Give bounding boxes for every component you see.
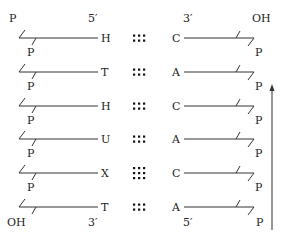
hbond-dot bbox=[133, 103, 135, 105]
right-base-label: C bbox=[172, 100, 180, 113]
left-bottom-end-label: 3′ bbox=[88, 216, 98, 229]
left-base-label: T bbox=[101, 201, 109, 214]
hbond-dot bbox=[143, 136, 145, 138]
hbond-dot bbox=[133, 167, 135, 169]
left-phosphate-label: P bbox=[27, 114, 35, 127]
hbond-dot bbox=[138, 69, 140, 71]
hbond-dot bbox=[138, 108, 140, 110]
left-lower-bond bbox=[32, 106, 36, 113]
hbond-dot bbox=[138, 167, 140, 169]
hbond-dot bbox=[143, 209, 145, 211]
right-base-label: A bbox=[171, 133, 181, 146]
hbond-dot bbox=[133, 74, 135, 76]
hbond-dot bbox=[133, 35, 135, 37]
hbond-dot bbox=[143, 74, 145, 76]
left-base-label: H bbox=[101, 100, 111, 113]
right-top-oh-label: OH bbox=[252, 12, 271, 25]
base-pair-row: PHCP bbox=[19, 30, 263, 59]
hbond-dot bbox=[143, 69, 145, 71]
hbond-dot bbox=[143, 172, 145, 174]
hbond-dot bbox=[138, 40, 140, 42]
hbond-dot bbox=[138, 141, 140, 143]
hbond-dot bbox=[138, 74, 140, 76]
hbond-dot bbox=[143, 177, 145, 179]
hydrogen-bond-dots bbox=[133, 35, 145, 42]
hbond-dot bbox=[143, 167, 145, 169]
hbond-dot bbox=[133, 172, 135, 174]
hbond-dot bbox=[133, 69, 135, 71]
hbond-dot bbox=[133, 108, 135, 110]
right-bottom-phosphate-label: P bbox=[256, 216, 264, 229]
left-phosphate-label: P bbox=[27, 147, 35, 160]
left-base-label: H bbox=[101, 32, 111, 45]
left-base-label: X bbox=[101, 167, 109, 180]
hbond-dot bbox=[133, 141, 135, 143]
left-phosphate-label: P bbox=[27, 46, 35, 59]
right-lower-bond bbox=[248, 106, 254, 114]
right-base-label: C bbox=[172, 32, 180, 45]
hbond-dot bbox=[143, 35, 145, 37]
hbond-dot bbox=[143, 204, 145, 206]
hbond-dot bbox=[143, 103, 145, 105]
base-pair-row: PTAP bbox=[19, 64, 263, 93]
hydrogen-bond-dots bbox=[133, 69, 145, 76]
left-upper-bond bbox=[19, 131, 25, 139]
hbond-dot bbox=[138, 204, 140, 206]
right-lower-bond bbox=[248, 72, 254, 80]
right-phosphate-label: P bbox=[255, 80, 263, 93]
left-upper-bond bbox=[19, 199, 25, 207]
right-phosphate-label: P bbox=[255, 46, 263, 59]
hbond-dot bbox=[133, 40, 135, 42]
left-lower-bond bbox=[32, 72, 36, 79]
left-base-label: T bbox=[101, 66, 109, 79]
left-upper-bond bbox=[19, 165, 25, 173]
diagram-canvas: P 5′ 3′ OH OH 3′ 5′ P PHCPPTAPPHCPPUAPPX… bbox=[0, 0, 289, 238]
left-phosphate-label: P bbox=[27, 80, 35, 93]
hbond-dot bbox=[133, 136, 135, 138]
right-phosphate-label: P bbox=[255, 147, 263, 160]
left-upper-bond bbox=[19, 30, 25, 38]
hbond-dot bbox=[133, 204, 135, 206]
left-bottom-oh-label: OH bbox=[7, 216, 26, 229]
right-base-label: A bbox=[171, 201, 181, 214]
hbond-dot bbox=[138, 103, 140, 105]
right-lower-bond bbox=[248, 38, 254, 46]
hbond-dot bbox=[133, 177, 135, 179]
right-upper-bond bbox=[236, 31, 240, 38]
right-bottom-end-label: 5′ bbox=[183, 216, 193, 229]
base-pair-row: PUAP bbox=[19, 131, 263, 160]
left-lower-bond bbox=[32, 139, 36, 146]
hydrogen-bond-dots bbox=[133, 103, 145, 110]
left-lower-bond bbox=[32, 207, 36, 214]
left-top-phosphate-label: P bbox=[9, 12, 17, 25]
right-base-label: C bbox=[172, 167, 180, 180]
left-top-end-label: 5′ bbox=[88, 12, 98, 25]
right-phosphate-label: P bbox=[255, 114, 263, 127]
hbond-dot bbox=[138, 172, 140, 174]
right-base-label: A bbox=[171, 66, 181, 79]
right-lower-bond bbox=[248, 139, 254, 147]
right-upper-bond bbox=[236, 200, 240, 207]
hbond-dot bbox=[143, 108, 145, 110]
left-upper-bond bbox=[19, 64, 25, 72]
right-top-end-label: 3′ bbox=[183, 12, 193, 25]
hydrogen-bond-dots bbox=[133, 167, 145, 179]
hydrogen-bond-dots bbox=[133, 136, 145, 143]
right-lower-bond bbox=[248, 173, 254, 181]
right-phosphate-label: P bbox=[255, 181, 263, 194]
left-upper-bond bbox=[19, 98, 25, 106]
hbond-dot bbox=[133, 209, 135, 211]
nucleic-acid-diagram: P 5′ 3′ OH OH 3′ 5′ P PHCPPTAPPHCPPUAPPX… bbox=[0, 0, 289, 238]
direction-arrow-icon bbox=[270, 84, 275, 230]
base-pair-row: PXCP bbox=[19, 165, 263, 194]
hbond-dot bbox=[138, 177, 140, 179]
right-upper-bond bbox=[236, 99, 240, 106]
right-upper-bond bbox=[236, 132, 240, 139]
right-upper-bond bbox=[236, 65, 240, 72]
right-upper-bond bbox=[236, 166, 240, 173]
right-lower-bond bbox=[248, 207, 254, 215]
base-pair-rows: PHCPPTAPPHCPPUAPPXCPTA bbox=[19, 30, 263, 215]
hbond-dot bbox=[143, 40, 145, 42]
hydrogen-bond-dots bbox=[133, 204, 145, 211]
left-lower-bond bbox=[32, 38, 36, 45]
